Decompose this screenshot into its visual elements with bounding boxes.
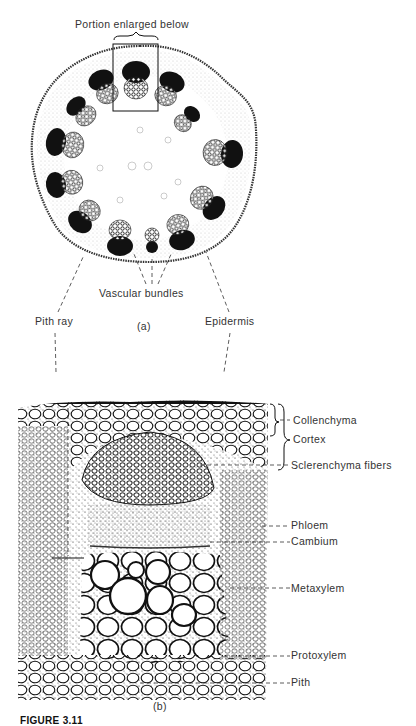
collenchyma-brace [270, 404, 279, 436]
figure-caption: FIGURE 3.11 [20, 715, 83, 726]
cambium-label: Cambium [291, 535, 338, 547]
sclerenchyma-fibers-label: Sclerenchyma fibers [291, 459, 392, 471]
enlarged-tissue-b [18, 400, 268, 700]
protoxylem-label: Protoxylem [291, 649, 347, 661]
leader-lines-a [55, 252, 230, 372]
portion-enlarged-label: Portion enlarged below [75, 18, 189, 30]
metaxylem-label: Metaxylem [291, 582, 344, 594]
pith-ray-label: Pith ray [35, 315, 73, 327]
part-b-label: (b) [153, 700, 167, 712]
vascular-bundles-label: Vascular bundles [99, 287, 184, 299]
cortex-label: Cortex [293, 433, 326, 445]
cortex-brace [278, 404, 290, 470]
phloem-label: Phloem [291, 519, 328, 531]
pith-label: Pith [291, 676, 310, 688]
cross-section-a [32, 32, 257, 262]
epidermis-label: Epidermis [205, 315, 254, 327]
part-a-label: (a) [137, 320, 151, 332]
collenchyma-label: Collenchyma [293, 414, 357, 426]
